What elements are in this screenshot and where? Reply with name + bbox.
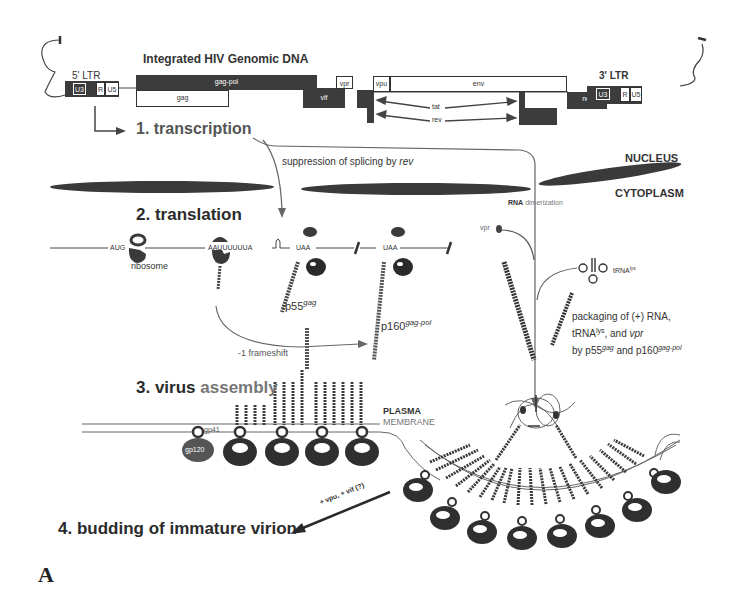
nuclear-envelope-1 <box>50 181 274 193</box>
gene-vif: vif <box>303 88 345 108</box>
stop-codon-2: UAA <box>383 244 397 251</box>
membrane-label: MEMBRANE <box>383 417 435 427</box>
step-3-virus-assembly: 3. virus assembly <box>136 378 278 398</box>
ribosome-label: ribosome <box>131 261 168 271</box>
packaging-note: packaging of (+) RNA, tRNAlys, and vpr b… <box>572 310 682 359</box>
gene-gag: gag <box>136 90 229 107</box>
nuclear-envelope-2 <box>301 183 531 195</box>
gene-env: env <box>390 76 567 92</box>
stop-codon-1: UAA <box>296 244 310 251</box>
plasma-label: PLASMA <box>383 406 421 416</box>
ltr5-u5: U5 <box>105 82 119 96</box>
p55-gag-label: p55gag <box>285 298 316 312</box>
ltr5-label: 5' LTR <box>72 70 100 81</box>
budding-virion <box>403 394 681 550</box>
ltr3-r: R <box>620 87 630 102</box>
nucleus-label: NUCLEUS <box>625 152 678 164</box>
step-1-transcription: 1. transcription <box>136 120 252 138</box>
host-dna-left <box>42 40 65 97</box>
splicing-note: suppression of splicing by rev <box>282 156 413 167</box>
ltr5-r: R <box>96 82 105 96</box>
rna-dimerization-label: RNA dimerization <box>508 199 563 206</box>
p160-gag-pol-label: p160gag-pol <box>381 318 431 332</box>
gene-gag-pol: gag-pol <box>136 75 317 90</box>
ltr3-u5: U5 <box>630 87 642 102</box>
cytoplasm-label: CYTOPLASM <box>615 187 684 199</box>
frameshift-label: -1 frameshift <box>238 348 288 358</box>
host-dna-right <box>680 44 703 86</box>
gene-rev-exon1 <box>367 100 374 123</box>
genome-title: Integrated HIV Genomic DNA <box>143 52 308 66</box>
ltr3-u3: U3 <box>596 88 610 100</box>
label-tat: tat <box>432 103 440 110</box>
step-2-translation: 2. translation <box>136 205 242 225</box>
trna-label: tRNAlys <box>613 266 636 274</box>
rev-arrow <box>377 111 516 121</box>
gp120-label: gp120 <box>185 446 204 453</box>
trna-glyph <box>579 258 607 283</box>
step-4-budding: 4. budding of immature virion <box>58 519 297 539</box>
gene-vpu: vpu <box>373 76 390 92</box>
label-rev: rev <box>432 116 442 123</box>
slippery-sequence: AAUUUUUUA <box>208 244 252 251</box>
ltr5-u3: U3 <box>73 83 86 95</box>
gene-tat-rev-exon2b <box>519 108 557 125</box>
vpr-small-label: vpr <box>480 224 490 231</box>
ltr3-label: 3' LTR <box>599 70 628 81</box>
tat-arrow <box>377 97 516 108</box>
transcription-arrow <box>95 106 118 131</box>
gene-tat-rev-exon2c <box>519 100 525 110</box>
gp41-label: gp41 <box>204 426 220 433</box>
panel-letter: A <box>38 562 54 588</box>
gene-vpr: vpr <box>336 76 353 89</box>
ribosome-1 <box>129 235 146 263</box>
aug-codon: AUG <box>110 244 125 251</box>
